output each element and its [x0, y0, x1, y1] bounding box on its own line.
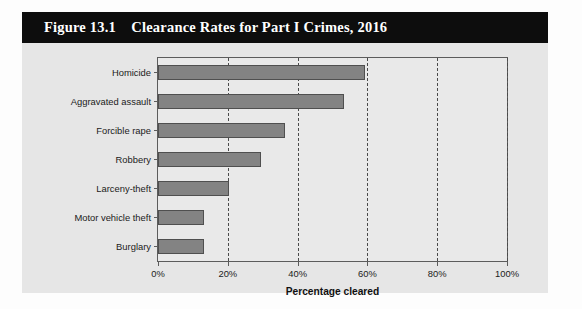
bar [158, 210, 204, 225]
bar-row: Forcible rape [158, 123, 507, 138]
chart-container: HomicideAggravated assaultForcible rapeR… [22, 43, 548, 293]
bar [158, 239, 204, 254]
figure-title: Figure 13.1 Clearance Rates for Part I C… [44, 19, 387, 36]
x-axis-tick-label: 80% [428, 268, 447, 279]
x-axis-tick [298, 261, 299, 266]
bar-row: Aggravated assault [158, 94, 507, 109]
x-axis-tick-label: 0% [151, 268, 165, 279]
x-axis-tick-label: 100% [495, 268, 519, 279]
y-axis-tick [154, 101, 158, 102]
category-label: Motor vehicle theft [74, 212, 151, 223]
bar [158, 94, 344, 109]
bar [158, 181, 229, 196]
bar-row: Burglary [158, 239, 507, 254]
plot-area: HomicideAggravated assaultForcible rapeR… [157, 57, 508, 262]
x-axis-tick [158, 261, 159, 266]
category-label: Larceny-theft [96, 183, 151, 194]
bar-series: HomicideAggravated assaultForcible rapeR… [158, 58, 507, 261]
x-axis-tick [507, 261, 508, 266]
y-axis-tick [154, 130, 158, 131]
x-axis-tick [228, 261, 229, 266]
category-label: Burglary [116, 241, 151, 252]
figure-title-bar: Figure 13.1 Clearance Rates for Part I C… [22, 12, 548, 43]
y-axis-tick [154, 188, 158, 189]
bar-row: Homicide [158, 65, 507, 80]
y-axis-tick [154, 246, 158, 247]
bar-row: Motor vehicle theft [158, 210, 507, 225]
x-axis-tick [367, 261, 368, 266]
bar [158, 65, 365, 80]
bar-row: Robbery [158, 152, 507, 167]
category-label: Robbery [116, 154, 151, 165]
x-axis-tick [437, 261, 438, 266]
x-axis-tick-label: 20% [218, 268, 237, 279]
category-label: Homicide [112, 67, 151, 78]
figure-panel: Figure 13.1 Clearance Rates for Part I C… [22, 12, 548, 293]
gridline [507, 58, 508, 261]
bar-row: Larceny-theft [158, 181, 507, 196]
x-axis-title: Percentage cleared [157, 286, 508, 297]
category-label: Forcible rape [96, 125, 151, 136]
x-axis-tick-label: 60% [358, 268, 377, 279]
y-axis-tick [154, 217, 158, 218]
bar [158, 123, 285, 138]
category-label: Aggravated assault [71, 96, 151, 107]
y-axis-tick [154, 159, 158, 160]
bar [158, 152, 261, 167]
y-axis-tick [154, 72, 158, 73]
x-axis-tick-label: 40% [288, 268, 307, 279]
